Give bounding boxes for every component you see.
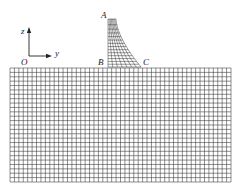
coordinate-axes bbox=[27, 27, 52, 58]
dam-mesh bbox=[108, 19, 141, 67]
label-C: C bbox=[143, 58, 149, 67]
label-B: B bbox=[98, 58, 104, 67]
axis-label-y: y bbox=[55, 49, 59, 58]
foundation-mesh bbox=[10, 68, 231, 182]
axis-label-z: z bbox=[21, 27, 25, 36]
dam-mesh-figure bbox=[0, 0, 240, 193]
label-O: O bbox=[21, 58, 28, 67]
label-A: A bbox=[101, 11, 107, 20]
